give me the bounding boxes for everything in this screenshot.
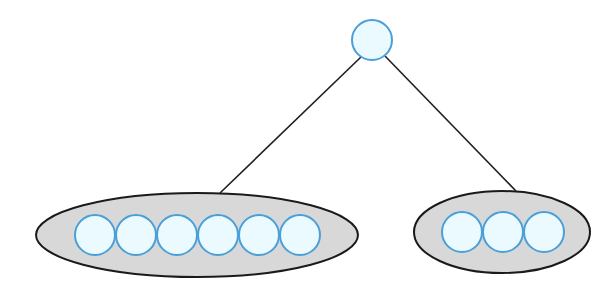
left-group-node-1 <box>75 215 115 255</box>
edge-root-to-right-group <box>385 56 516 191</box>
root-node <box>352 20 392 60</box>
left-group-node-6 <box>280 215 320 255</box>
left-group-node-3 <box>157 215 197 255</box>
edge-root-to-left-group <box>220 57 361 193</box>
left-group <box>36 193 358 277</box>
left-group-node-4 <box>198 215 238 255</box>
left-group-node-2 <box>116 215 156 255</box>
left-group-node-5 <box>239 215 279 255</box>
right-group-node-1 <box>442 212 482 252</box>
right-group-node-3 <box>524 212 564 252</box>
tree-diagram <box>0 0 612 297</box>
right-group <box>414 191 590 273</box>
root-node-layer <box>352 20 392 60</box>
groups <box>36 191 590 277</box>
edges <box>220 56 516 193</box>
right-group-node-2 <box>483 212 523 252</box>
